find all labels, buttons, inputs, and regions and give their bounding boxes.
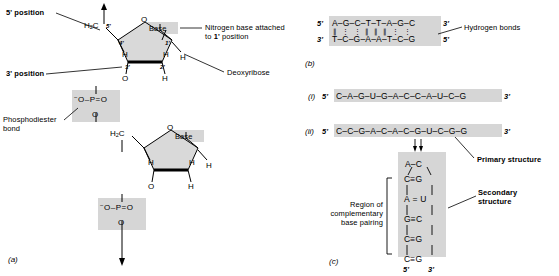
label-region-complementary: Region of complementary base pairing [303, 200, 383, 227]
hairpin-5prime: 5' [403, 265, 409, 274]
hairpin-pair-3: G≡C [404, 214, 422, 224]
label-primary-structure: Primary structure [477, 155, 541, 164]
label-secondary-structure: Secondary structure [478, 188, 517, 206]
hairpin-3prime: 3' [428, 265, 434, 274]
hairpin-pair-4: C≡G [404, 234, 422, 244]
hairpin-pair-2: A = U [404, 194, 427, 204]
hairpin-loop: A–C [405, 159, 422, 169]
panel-c-structure-lines [0, 0, 559, 276]
panel-letter-c: (c) [329, 257, 338, 266]
hairpin-pair-5: C≡G [404, 254, 422, 264]
hairpin-pair-1: C≡G [404, 174, 422, 184]
